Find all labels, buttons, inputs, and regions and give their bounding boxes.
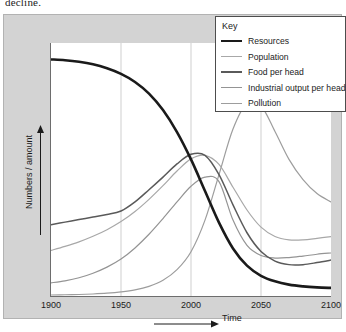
legend-label: Food per head [248, 67, 304, 77]
legend-swatch-icon [221, 103, 242, 104]
legend-entry: Population [221, 50, 289, 64]
figure-panel: 19001950200020502100 Numbers / amount Ti… [3, 14, 342, 319]
x-axis-line [50, 296, 331, 297]
legend-label: Resources [248, 36, 289, 46]
legend-entry: Food per head [221, 65, 304, 79]
cropped-body-text: decline. [5, 0, 41, 8]
legend-title: Key [222, 21, 238, 31]
y-axis-title-group: Numbers / amount [14, 127, 28, 237]
x-axis-title: Time [222, 313, 242, 323]
legend-entry: Resources [221, 34, 289, 48]
legend-entry: Industrial output per head [221, 81, 345, 95]
legend-label: Population [248, 52, 289, 62]
x-axis-title-group: Time [154, 315, 220, 329]
x-tick-label: 2000 [181, 300, 201, 310]
legend-swatch-icon [221, 71, 242, 73]
legend-box: Key ResourcesPopulationFood per headIndu… [215, 16, 346, 112]
legend-swatch-icon [221, 56, 242, 57]
legend-label: Pollution [248, 98, 281, 108]
x-tick-label: 2050 [251, 300, 271, 310]
legend-swatch-icon [221, 87, 242, 88]
legend-label: Industrial output per head [248, 83, 345, 93]
legend-entry: Pollution [221, 96, 281, 110]
y-axis-arrow-icon [36, 125, 45, 237]
legend-swatch-icon [221, 40, 242, 43]
x-tick-label: 2100 [321, 300, 341, 310]
x-axis-arrow-icon [154, 319, 220, 329]
x-tick-label: 1950 [111, 300, 131, 310]
x-tick-label: 1900 [41, 300, 61, 310]
y-axis-title: Numbers / amount [24, 117, 34, 227]
